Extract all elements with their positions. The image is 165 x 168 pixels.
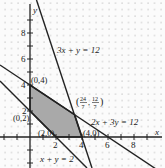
label-3x-plus-y-eq-12: 3x + y = 12 <box>56 45 100 55</box>
x-axis-label: x <box>154 127 159 137</box>
x-tick-8: 8 <box>131 140 136 150</box>
svg-text:24: 24 <box>80 96 86 102</box>
x-tick-6: 6 <box>105 140 110 150</box>
lp-graph: 8 6 4 2 2 4 6 8 y x 3x + y = 12 2x + 3y … <box>0 0 165 168</box>
x-tick-2: 2 <box>53 140 58 150</box>
y-tick-8: 8 <box>21 28 26 38</box>
y-tick-4: 4 <box>21 80 26 90</box>
y-tick-6: 6 <box>21 54 26 64</box>
label-x-plus-y-eq-2: x + y = 2 <box>39 154 74 164</box>
svg-text:): ) <box>100 96 103 108</box>
x-tick-4: 4 <box>79 140 84 150</box>
graph-canvas: 8 6 4 2 2 4 6 8 y x 3x + y = 12 2x + 3y … <box>0 0 165 168</box>
svg-text:7: 7 <box>94 104 97 110</box>
y-axis-label: y <box>32 5 37 15</box>
vertex-4-0-label: (4,0) <box>83 128 99 138</box>
vertex-0-4-label: (0,4) <box>31 75 47 85</box>
vertex-2-0-label: (2,0) <box>38 128 54 138</box>
svg-text:7: 7 <box>82 104 85 110</box>
label-2x-plus-3y-eq-12: 2x + 3y = 12 <box>91 117 139 127</box>
vertex-0-2-label: (0,2) <box>13 113 29 123</box>
svg-text:,: , <box>88 98 90 107</box>
svg-text:12: 12 <box>92 96 98 102</box>
